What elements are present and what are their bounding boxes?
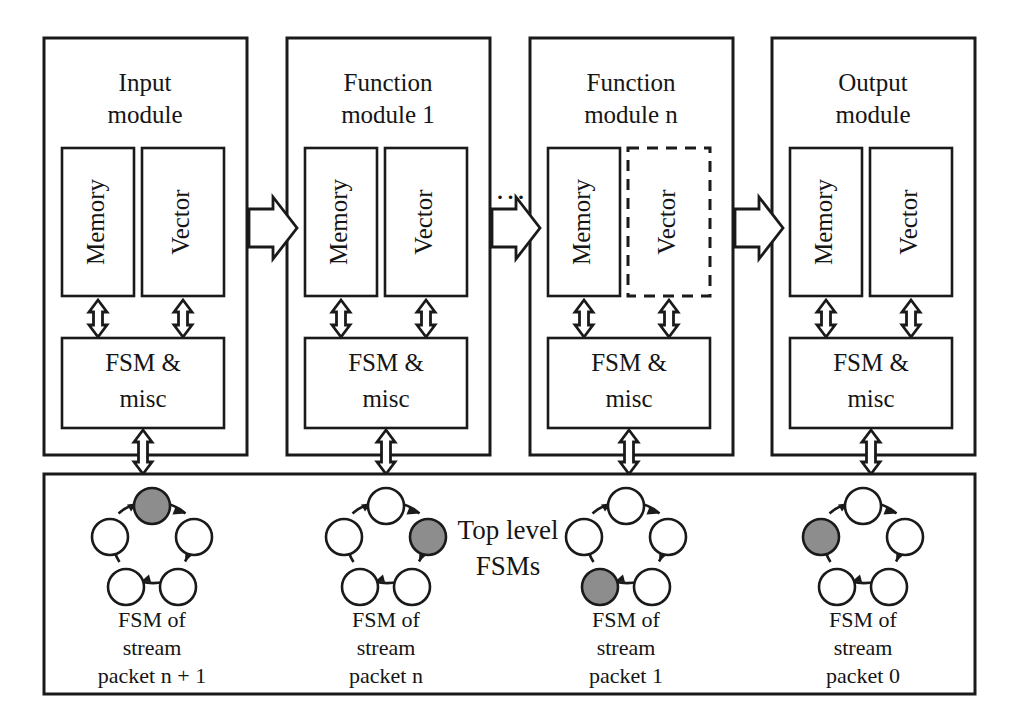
fsm-misc-line2: misc [362,385,409,412]
fsm-state-node[interactable] [368,488,404,524]
fsm-state-node[interactable] [887,519,923,555]
module-title-line1: Function [344,69,433,96]
fsm-misc-line1: FSM & [591,349,667,376]
fsm-state-node[interactable] [326,519,362,555]
fsm-state-node[interactable] [108,569,144,605]
vector-label: Vector [410,189,437,255]
fsm-state-node[interactable] [634,569,670,605]
module-title-line2: module 1 [341,101,435,128]
fsm-state-node[interactable] [845,488,881,524]
fsm-caption-line3: packet 0 [826,663,900,688]
fsm-state-node[interactable] [582,569,618,605]
vector-label: Vector [895,189,922,255]
fsm-caption-line2: stream [123,635,182,660]
memory-label: Memory [810,178,837,265]
module-title-line2: module [108,101,183,128]
ellipsis-more-modules: ... [496,172,528,205]
top-level-label-line1: Top level [458,515,559,545]
fsm-state-node[interactable] [566,519,602,555]
fsm-state-node[interactable] [608,488,644,524]
vector-label: Vector [653,189,680,255]
module-function-n[interactable]: Function module n Memory Vector FSM & mi… [530,38,733,474]
module-title-line2: module n [584,101,678,128]
module-title-line2: module [836,101,911,128]
fsm-caption-line3: packet n [349,663,423,688]
fsm-state-node[interactable] [160,569,196,605]
fsm-caption-line1: FSM of [352,607,421,632]
fsm-caption-line3: packet n + 1 [98,663,206,688]
fsm-caption-line2: stream [597,635,656,660]
memory-label: Memory [325,178,352,265]
fsm-caption-line1: FSM of [118,607,187,632]
fsm-misc-line2: misc [119,385,166,412]
module-title-line1: Input [119,69,172,96]
module-output[interactable]: Output module Memory Vector FSM & misc [772,38,975,474]
fsm-caption-line1: FSM of [592,607,661,632]
fsm-misc-line1: FSM & [348,349,424,376]
fsm-misc-line1: FSM & [105,349,181,376]
fsm-state-node[interactable] [650,519,686,555]
module-function-1[interactable]: Function module 1 Memory Vector FSM & mi… [287,38,490,474]
fsm-misc-line2: misc [605,385,652,412]
top-level-fsm-panel: Top level FSMs FSM [44,474,975,694]
fsm-state-node[interactable] [410,519,446,555]
memory-label: Memory [568,178,595,265]
fsm-state-node[interactable] [92,519,128,555]
fsm-state-node[interactable] [342,569,378,605]
memory-label: Memory [82,178,109,265]
top-level-label-line2: FSMs [476,551,541,581]
fsm-state-node[interactable] [176,519,212,555]
fsm-misc-line1: FSM & [833,349,909,376]
fsm-caption-line2: stream [357,635,416,660]
architecture-diagram: Input module Memory Vector FSM & misc Fu… [0,0,1016,723]
fsm-state-node[interactable] [394,569,430,605]
fsm-caption-line2: stream [834,635,893,660]
fsm-state-node[interactable] [803,519,839,555]
fsm-caption-line1: FSM of [829,607,898,632]
diagram-canvas: Input module Memory Vector FSM & misc Fu… [0,0,1016,723]
fsm-state-node[interactable] [134,488,170,524]
fsm-state-node[interactable] [819,569,855,605]
fsm-misc-line2: misc [847,385,894,412]
module-input[interactable]: Input module Memory Vector FSM & misc [44,38,247,474]
module-title-line1: Output [838,69,908,96]
fsm-caption-line3: packet 1 [589,663,663,688]
fsm-state-node[interactable] [871,569,907,605]
module-title-line1: Function [587,69,676,96]
vector-label: Vector [167,189,194,255]
